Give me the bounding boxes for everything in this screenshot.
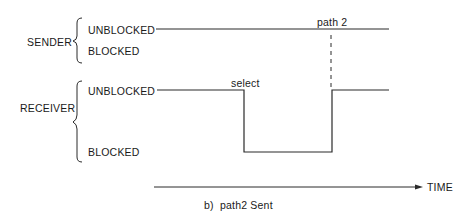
receiver-brace	[73, 81, 82, 162]
sender-brace	[73, 18, 82, 63]
select-annotation: select	[231, 77, 260, 89]
time-axis-label: TIME	[427, 181, 453, 193]
figure-caption: b) path2 Sent	[204, 199, 273, 211]
sender-blocked-label: BLOCKED	[88, 45, 140, 57]
sender-unblocked-label: UNBLOCKED	[88, 24, 155, 36]
receiver-label: RECEIVER	[20, 102, 75, 114]
sender-label: SENDER	[27, 36, 72, 48]
path2-annotation: path 2	[317, 16, 347, 28]
time-axis-arrowhead	[415, 185, 423, 190]
receiver-unblocked-label: UNBLOCKED	[88, 85, 155, 97]
receiver-signal-line	[157, 90, 389, 152]
receiver-blocked-label: BLOCKED	[88, 146, 140, 158]
